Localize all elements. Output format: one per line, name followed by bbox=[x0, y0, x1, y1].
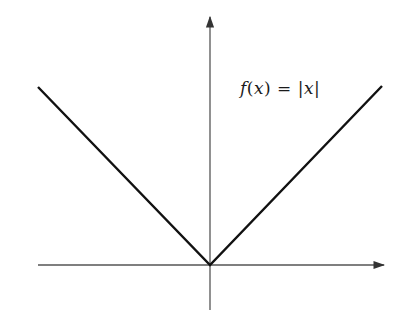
label-abs-close: | bbox=[314, 78, 320, 98]
plot-canvas bbox=[0, 0, 407, 317]
function-label: f(x) = |x| bbox=[240, 78, 320, 98]
label-f: f bbox=[240, 78, 247, 98]
label-equals-abs: = | bbox=[271, 78, 304, 98]
label-abs-x: x bbox=[304, 78, 314, 98]
label-open-paren: ( bbox=[247, 78, 254, 98]
label-x: x bbox=[254, 78, 264, 98]
abs-function-graph: f(x) = |x| bbox=[0, 0, 407, 317]
